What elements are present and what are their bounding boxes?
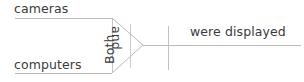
subject-label-computers: computers bbox=[14, 59, 82, 72]
sentence-diagram: cameras computers Both and were displaye… bbox=[0, 0, 304, 82]
predicate-label: were displayed bbox=[190, 26, 286, 39]
conjunction-label-and: and bbox=[110, 26, 123, 50]
subject-label-cameras: cameras bbox=[14, 3, 68, 16]
